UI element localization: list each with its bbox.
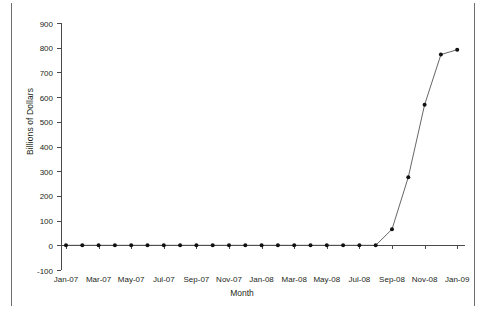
- chart-figure: Billions of Dollars -1000100200300400500…: [0, 0, 484, 309]
- data-point-marker: [178, 243, 182, 247]
- data-point-marker: [309, 243, 313, 247]
- data-point-marker: [146, 243, 150, 247]
- x-tick-label: May-07: [118, 275, 145, 284]
- data-point-marker: [113, 243, 117, 247]
- data-point-marker: [423, 103, 427, 107]
- x-tick-label: Nov-07: [216, 275, 242, 284]
- y-tick-label: 400: [40, 143, 53, 152]
- x-tick-label: Jul-08: [348, 275, 370, 284]
- x-tick-label: Sep-08: [379, 275, 405, 284]
- y-tick-label: 600: [40, 93, 53, 102]
- x-tick-label: Jul-07: [153, 275, 175, 284]
- data-point-marker: [194, 243, 198, 247]
- data-point-marker: [406, 175, 410, 179]
- y-tick-label: -100: [37, 266, 53, 275]
- data-point-marker: [260, 243, 264, 247]
- y-tick: -100: [57, 270, 61, 271]
- x-tick-label: Jan-07: [54, 275, 78, 284]
- data-point-marker: [243, 243, 247, 247]
- y-tick-label: 500: [40, 118, 53, 127]
- x-tick-label: Mar-07: [86, 275, 111, 284]
- series-polyline: [66, 50, 457, 246]
- x-tick-label: Mar-08: [282, 275, 307, 284]
- data-point-marker: [292, 243, 296, 247]
- x-tick-label: Jan-08: [249, 275, 273, 284]
- x-tick-label: Jan-09: [445, 275, 469, 284]
- data-point-marker: [325, 243, 329, 247]
- data-point-marker: [162, 243, 166, 247]
- data-point-marker: [341, 243, 345, 247]
- data-point-marker: [129, 243, 133, 247]
- data-series-line: [61, 23, 465, 270]
- x-axis-title: Month: [0, 288, 484, 298]
- data-point-marker: [276, 243, 280, 247]
- y-tick-label: 100: [40, 217, 53, 226]
- data-point-marker: [455, 48, 459, 52]
- data-point-marker: [357, 243, 361, 247]
- y-tick-label: 900: [40, 19, 53, 28]
- data-point-marker: [80, 243, 84, 247]
- y-axis-title: Billions of Dollars: [25, 88, 35, 155]
- figure-border-right: [474, 3, 475, 306]
- figure-border-left: [11, 3, 12, 306]
- data-point-marker: [439, 53, 443, 57]
- data-point-marker: [374, 243, 378, 247]
- x-tick-label: Sep-07: [183, 275, 209, 284]
- y-tick-label: 200: [40, 192, 53, 201]
- y-tick-label: 0: [49, 241, 53, 250]
- x-tick-label: Nov-08: [412, 275, 438, 284]
- data-point-marker: [390, 227, 394, 231]
- y-tick-label: 300: [40, 167, 53, 176]
- y-tick-label: 700: [40, 68, 53, 77]
- data-point-marker: [227, 243, 231, 247]
- x-tick-label: May-08: [313, 275, 340, 284]
- data-point-marker: [64, 243, 68, 247]
- data-point-marker: [97, 243, 101, 247]
- y-tick-label: 800: [40, 44, 53, 53]
- data-point-marker: [211, 243, 215, 247]
- plot-area: -1000100200300400500600700800900 Jan-07M…: [61, 23, 465, 270]
